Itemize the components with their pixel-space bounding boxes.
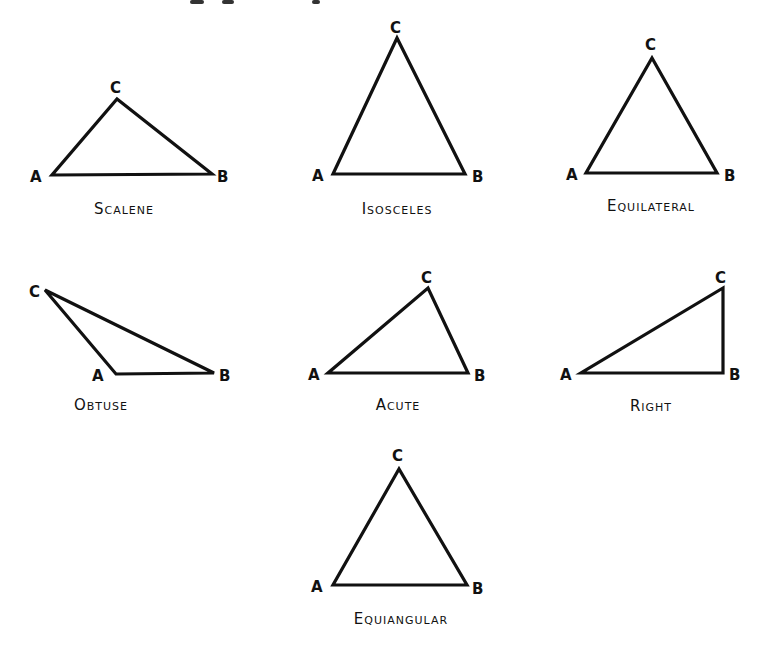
triangle-equiangular: A B C Equiangular [311,447,483,628]
caption-isosceles: Isosceles [362,200,433,218]
triangle-obtuse: A B C Obtuse [29,283,230,414]
triangle-scalene: A B C Scalene [30,79,228,218]
vertex-label-c: C [110,79,121,97]
vertex-label-b: B [724,167,735,185]
caption-equilateral: Equilateral [607,197,695,215]
caption-obtuse: Obtuse [74,396,128,414]
vertex-label-a: A [308,366,320,384]
caption-scalene: Scalene [94,200,154,218]
vertex-label-b: B [474,367,485,385]
vertex-label-b: B [217,168,228,186]
vertex-label-c: C [390,19,401,37]
vertex-label-a: A [311,578,323,596]
vertex-label-c: C [715,269,726,287]
triangle-acute: A B C Acute [308,269,485,414]
caption-acute: Acute [376,396,421,414]
triangle-equilateral: A B C Equilateral [566,36,735,215]
caption-right: Right [630,397,672,415]
equiangular-shape [333,469,467,585]
obtuse-shape [45,290,214,374]
vertex-label-b: B [472,168,483,186]
vertex-label-a: A [92,367,104,385]
caption-equiangular: Equiangular [354,610,448,628]
acute-shape [328,288,468,373]
vertex-label-a: A [30,168,42,186]
triangle-isosceles: A B C Isosceles [312,19,483,218]
triangle-right: A B C Right [560,269,740,415]
scalene-shape [52,99,212,175]
vertex-label-c: C [645,36,656,54]
vertex-label-c: C [392,447,403,465]
isosceles-shape [333,38,465,174]
vertex-label-b: B [219,367,230,385]
vertex-label-a: A [566,166,578,184]
triangle-types-diagram: A B C Scalene A B C Isosceles A B C Equi… [0,0,759,651]
vertex-label-c: C [29,283,40,301]
vertex-label-b: B [472,580,483,598]
vertex-label-c: C [421,269,432,287]
right-shape [581,288,723,373]
vertex-label-a: A [312,167,324,185]
vertex-label-b: B [729,366,740,384]
vertex-label-a: A [560,366,572,384]
equilateral-shape [586,58,717,173]
